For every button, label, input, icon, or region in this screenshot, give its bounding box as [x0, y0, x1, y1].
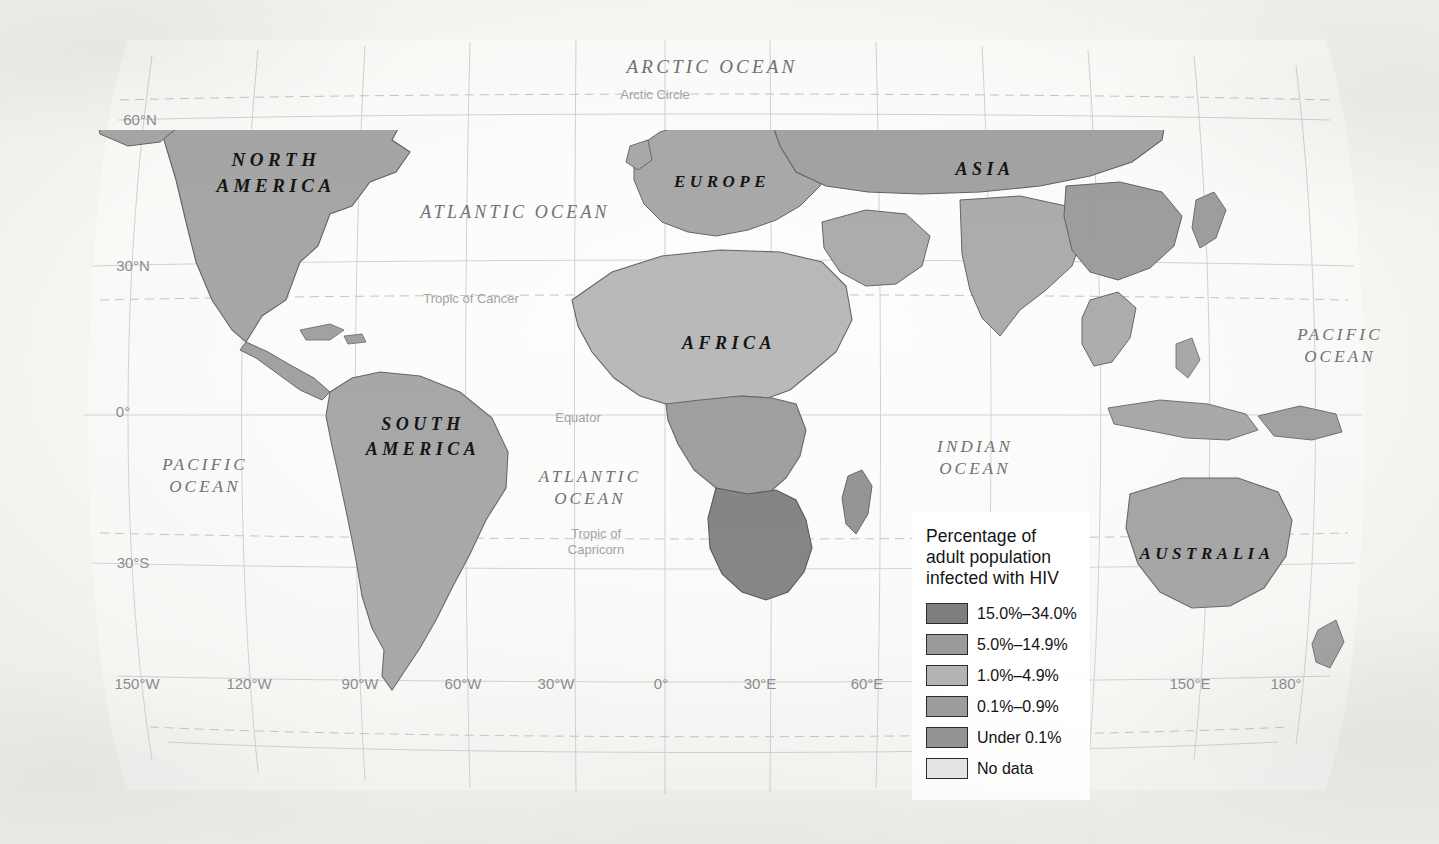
ocean-label-arctic-ocean: ARCTIC OCEAN — [625, 56, 798, 77]
ocean-label-pacific-ocean-west: PACIFIC — [161, 455, 247, 474]
reference-label-tropic-of-capricorn: Tropic of — [571, 526, 621, 541]
ocean-label-indian-ocean: INDIAN — [936, 437, 1013, 456]
swatch-15-34 — [926, 603, 968, 624]
swatch-01-09 — [926, 696, 968, 717]
swatch-under-01 — [926, 727, 968, 748]
ocean-label-atlantic-ocean-north: ATLANTIC OCEAN — [419, 202, 610, 222]
latitude-label-1: 30°N — [116, 257, 150, 274]
longitude-label-8: 150°E — [1169, 675, 1210, 692]
continent-label-south-america: SOUTH — [381, 414, 465, 434]
land-hispaniola — [344, 334, 366, 344]
legend-row-1: 5.0%–14.9% — [926, 629, 1080, 660]
reference-label-tropic-of-cancer: Tropic of Cancer — [423, 291, 519, 306]
legend-label-1: 5.0%–14.9% — [977, 636, 1068, 654]
legend-row-5: No data — [926, 753, 1080, 784]
longitude-label-4: 30°W — [538, 675, 576, 692]
latitude-label-0: 60°N — [123, 111, 157, 128]
world-map: NORTHAMERICASOUTHAMERICAEUROPEAFRICAASIA… — [0, 0, 1439, 844]
ocean-label-pacific-ocean-west-line2: OCEAN — [169, 477, 241, 496]
map-svg: NORTHAMERICASOUTHAMERICAEUROPEAFRICAASIA… — [0, 0, 1439, 844]
map-legend: Percentage of adult population infected … — [912, 512, 1090, 800]
legend-title-line-2: adult population — [926, 547, 1080, 568]
legend-row-3: 0.1%–0.9% — [926, 691, 1080, 722]
longitude-label-0: 150°W — [114, 675, 160, 692]
continent-label-south-america-line2: AMERICA — [365, 439, 481, 459]
legend-label-0: 15.0%–34.0% — [977, 605, 1077, 623]
longitude-label-6: 30°E — [744, 675, 777, 692]
legend-label-4: Under 0.1% — [977, 729, 1062, 747]
latitude-label-3: 30°S — [117, 554, 150, 571]
ocean-label-pacific-ocean-east-line2: OCEAN — [1304, 347, 1376, 366]
ocean-label-pacific-ocean-east: PACIFIC — [1296, 325, 1382, 344]
swatch-1-4 — [926, 665, 968, 686]
continent-label-asia: ASIA — [954, 159, 1014, 179]
longitude-label-2: 90°W — [342, 675, 380, 692]
reference-label-arctic-circle: Arctic Circle — [620, 87, 689, 102]
continent-label-australia: AUSTRALIA — [1139, 544, 1275, 563]
longitude-label-1: 120°W — [226, 675, 272, 692]
legend-title: Percentage of adult population infected … — [926, 526, 1080, 589]
ocean-label-indian-ocean-line2: OCEAN — [939, 459, 1011, 478]
longitude-label-5: 0° — [654, 675, 668, 692]
legend-label-3: 0.1%–0.9% — [977, 698, 1059, 716]
longitude-label-7: 60°E — [851, 675, 884, 692]
legend-title-line-1: Percentage of — [926, 526, 1080, 547]
ocean-label-atlantic-ocean-south: ATLANTIC — [538, 467, 641, 486]
ocean-label-atlantic-ocean-south-line2: OCEAN — [554, 489, 626, 508]
legend-row-4: Under 0.1% — [926, 722, 1080, 753]
longitude-label-9: 180° — [1270, 675, 1301, 692]
legend-row-2: 1.0%–4.9% — [926, 660, 1080, 691]
reference-label-tropic-of-capricorn-line2: Capricorn — [568, 542, 624, 557]
latitude-label-2: 0° — [116, 403, 130, 420]
legend-entries: 15.0%–34.0%5.0%–14.9%1.0%–4.9%0.1%–0.9%U… — [926, 598, 1080, 784]
legend-title-line-3: infected with HIV — [926, 568, 1080, 589]
legend-label-5: No data — [977, 760, 1033, 778]
swatch-no-data — [926, 758, 968, 779]
continent-label-north-america: NORTH — [231, 149, 321, 170]
legend-row-0: 15.0%–34.0% — [926, 598, 1080, 629]
map-page: NORTHAMERICASOUTHAMERICAEUROPEAFRICAASIA… — [0, 0, 1439, 844]
continent-label-africa: AFRICA — [681, 333, 776, 353]
continent-label-north-america-line2: AMERICA — [215, 175, 335, 196]
reference-label-equator: Equator — [555, 410, 601, 425]
swatch-5-14 — [926, 634, 968, 655]
legend-label-2: 1.0%–4.9% — [977, 667, 1059, 685]
longitude-label-3: 60°W — [445, 675, 483, 692]
continent-label-europe: EUROPE — [673, 172, 770, 191]
